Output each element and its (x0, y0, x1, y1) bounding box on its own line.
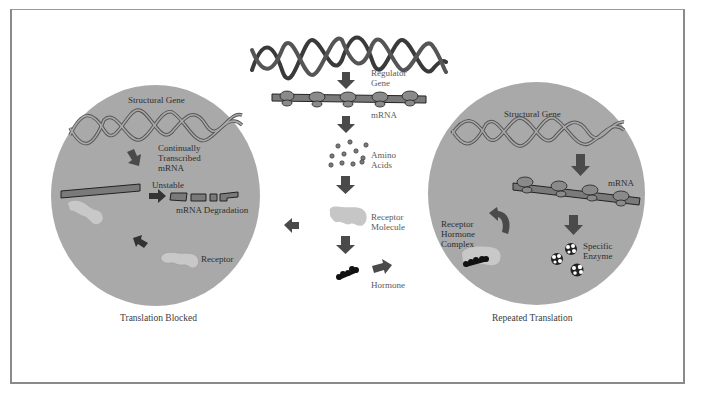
hormone-label: Hormone (371, 280, 405, 290)
receptor-molecule-icon (330, 207, 367, 226)
transcribed-label-2: Transcribed (158, 153, 201, 163)
arrow-down-icon (336, 236, 355, 254)
right-mrna-label: mRNA (608, 178, 635, 188)
complex-label-3: Complex (441, 239, 474, 249)
transcribed-label-3: mRNA (158, 163, 185, 173)
mrna-label: mRNA (371, 110, 398, 120)
amino-acids-label-2: Acids (371, 160, 392, 170)
complex-label-1: Receptor (441, 219, 473, 229)
complex-label-2: Hormone (441, 229, 475, 239)
left-structural-gene-label: Structural Gene (128, 95, 185, 105)
arrow-left-icon (284, 218, 299, 233)
left-panel-translation-blocked: Structural Gene Continually Transcribed … (51, 85, 260, 306)
arrow-down-icon (337, 72, 355, 89)
gene-regulation-diagram: Regulator Gene mRNA Amino Acids Receptor… (0, 0, 702, 396)
left-caption: Translation Blocked (120, 313, 197, 323)
unstable-label: Unstable (152, 180, 184, 190)
transcribed-label-1: Continually (158, 143, 201, 153)
degradation-label: mRNA Degradation (176, 205, 249, 215)
enzyme-label-2: Enzyme (583, 251, 613, 261)
right-caption: Repeated Translation (492, 313, 573, 323)
receptor-molecule-label-1: Receptor (371, 212, 403, 222)
arrow-down-icon (336, 176, 355, 194)
regulator-gene-label-2: Gene (371, 78, 390, 88)
amino-acids-icon (329, 140, 368, 167)
right-panel-repeated-translation: Structural Gene mRNA Receptor Hormone Co… (428, 82, 645, 305)
arrow-right-icon (372, 259, 392, 274)
hormone-icon (336, 266, 359, 280)
mrna-strand-icon (272, 91, 426, 107)
receptor-molecule-label-2: Molecule (371, 222, 405, 232)
amino-acids-label-1: Amino (371, 150, 397, 160)
regulator-gene-label-1: Regulator (371, 68, 407, 78)
arrow-down-icon (337, 116, 355, 133)
receptor-label: Receptor (201, 254, 233, 264)
enzyme-label-1: Specific (583, 241, 613, 251)
